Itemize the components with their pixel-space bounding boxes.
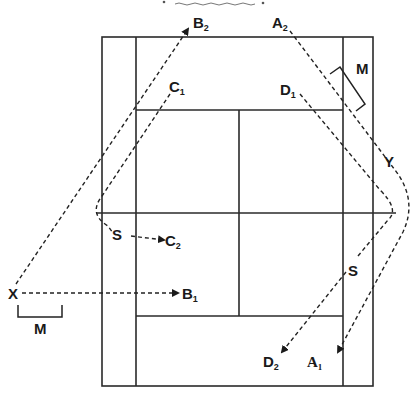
- label-y: Y: [384, 153, 394, 170]
- m-bracket-left: [18, 305, 62, 317]
- badminton-court-diagram: B2 A2 C1 D1 M Y S C2 X B1 M S D2 A1: [0, 0, 417, 393]
- label-b1: B1: [182, 285, 198, 304]
- path-c1-to-c2: [96, 94, 170, 240]
- label-s-left: S: [112, 226, 122, 243]
- court: [96, 37, 396, 386]
- shot-paths: [16, 29, 409, 352]
- label-c2: C2: [165, 232, 181, 251]
- label-x: X: [8, 285, 18, 302]
- path-a2-to-a1: [290, 31, 409, 352]
- label-a2: A2: [272, 14, 288, 33]
- top-marks: [163, 1, 265, 5]
- label-c1: C1: [169, 78, 185, 97]
- path-d1-to-d2: [282, 94, 393, 352]
- court-outer-boundary: [102, 37, 373, 386]
- label-d1: D1: [280, 81, 296, 100]
- label-m-right: M: [356, 60, 369, 77]
- label-m-left: M: [34, 320, 47, 337]
- label-d2: D2: [263, 353, 279, 372]
- label-b2: B2: [193, 14, 209, 33]
- label-s-right: S: [348, 262, 358, 279]
- label-a1: A1: [307, 354, 323, 372]
